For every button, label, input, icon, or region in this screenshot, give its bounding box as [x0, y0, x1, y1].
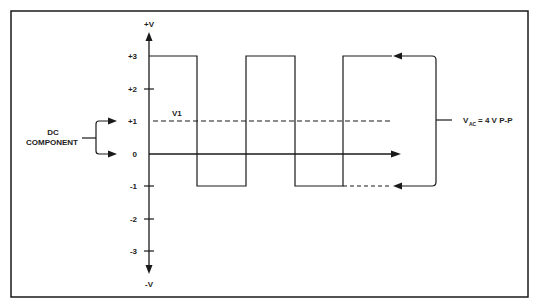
y-axis-down-arrow-icon — [146, 265, 153, 274]
y-axis-up-arrow-icon — [146, 32, 153, 41]
bracket-top-arrow-icon — [393, 53, 402, 60]
vac-value: = 4 V P-P — [478, 116, 513, 125]
y-axis-top-label: +V — [144, 20, 155, 29]
dc-bottom-arrow-icon — [108, 151, 117, 158]
tick-label: 0 — [133, 150, 138, 159]
vac-subscript: AC — [469, 121, 477, 127]
tick-label: +1 — [128, 117, 138, 126]
tick-label: +2 — [128, 85, 138, 94]
dc-label-line1: DC — [47, 128, 59, 137]
dc-label-line2: COMPONENT — [26, 138, 78, 147]
x-axis-arrow-icon — [391, 151, 401, 158]
v1-label: V1 — [172, 109, 182, 118]
bracket-bottom-arrow-icon — [393, 183, 402, 190]
waveform-diagram: +V -V +3 +2 +1 0 -1 -2 -3 V1 V AC = 4 V … — [0, 0, 536, 306]
tick-label: +3 — [128, 52, 138, 61]
y-tick-labels: +3 +2 +1 0 -1 -2 -3 — [128, 52, 138, 256]
dc-top-arrow-icon — [108, 118, 117, 125]
vac-bracket — [393, 53, 452, 190]
tick-label: -1 — [130, 182, 138, 191]
vac-label: V AC = 4 V P-P — [463, 116, 513, 127]
dc-bracket — [82, 118, 117, 158]
tick-label: -3 — [130, 247, 138, 256]
y-axis-bottom-label: -V — [145, 280, 154, 289]
tick-label: -2 — [130, 215, 138, 224]
